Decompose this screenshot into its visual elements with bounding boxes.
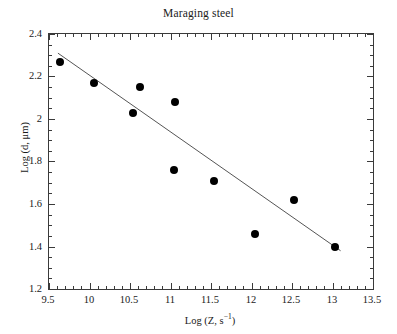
axis-tick — [357, 286, 358, 289]
axis-tick — [367, 76, 373, 77]
axis-tick — [370, 140, 373, 141]
axis-tick — [49, 119, 55, 120]
axis-tick — [57, 34, 58, 37]
data-point — [210, 177, 218, 185]
axis-tick — [276, 286, 277, 289]
axis-tick — [98, 34, 99, 37]
axis-tick — [49, 76, 55, 77]
axis-tick — [370, 183, 373, 184]
axis-tick — [171, 34, 172, 40]
axis-tick — [122, 286, 123, 289]
axis-tick — [370, 66, 373, 67]
axis-tick — [308, 34, 309, 37]
axis-tick — [235, 286, 236, 289]
axis-tick — [49, 130, 52, 131]
axis-tick — [195, 286, 196, 289]
axis-tick — [235, 34, 236, 37]
y-tick-label: 2.4 — [14, 28, 42, 39]
axis-tick — [114, 286, 115, 289]
axis-tick — [333, 283, 334, 289]
x-tick-label: 9.5 — [41, 294, 54, 305]
axis-tick — [367, 204, 373, 205]
axis-tick — [367, 161, 373, 162]
axis-tick — [367, 119, 373, 120]
plot-area — [48, 33, 374, 290]
axis-tick — [81, 286, 82, 289]
axis-tick — [106, 286, 107, 289]
axis-tick — [316, 34, 317, 37]
axis-tick — [284, 286, 285, 289]
axis-tick — [49, 289, 55, 290]
axis-tick — [49, 45, 52, 46]
x-tick-label: 10.5 — [120, 294, 138, 305]
axis-tick — [370, 236, 373, 237]
axis-tick — [73, 286, 74, 289]
y-tick-label: 1.2 — [14, 283, 42, 294]
axis-tick — [370, 55, 373, 56]
axis-tick — [324, 34, 325, 37]
axis-tick — [370, 98, 373, 99]
axis-tick — [49, 108, 52, 109]
x-tick-label: 12.5 — [282, 294, 300, 305]
chart-title: Maraging steel — [0, 7, 397, 19]
axis-tick — [146, 286, 147, 289]
data-point — [129, 109, 137, 117]
axis-tick — [370, 257, 373, 258]
axis-tick — [370, 193, 373, 194]
axis-tick — [292, 34, 293, 40]
axis-tick — [49, 257, 52, 258]
x-axis-title: Log (Z, s−1) — [48, 312, 372, 326]
axis-tick — [370, 151, 373, 152]
axis-tick — [292, 283, 293, 289]
data-point — [170, 166, 178, 174]
axis-tick — [49, 87, 52, 88]
axis-tick — [187, 286, 188, 289]
data-point — [56, 58, 64, 66]
axis-tick — [370, 225, 373, 226]
axis-tick — [367, 289, 373, 290]
axis-tick — [81, 34, 82, 37]
axis-tick — [219, 286, 220, 289]
axis-tick — [49, 172, 52, 173]
axis-tick — [90, 283, 91, 289]
axis-tick — [138, 286, 139, 289]
data-point — [331, 243, 339, 251]
axis-tick — [49, 161, 55, 162]
axis-tick — [49, 236, 52, 237]
axis-tick — [146, 34, 147, 37]
axis-tick — [365, 34, 366, 37]
axis-tick — [49, 247, 55, 248]
axis-tick — [49, 268, 52, 269]
axis-tick — [284, 34, 285, 37]
axis-tick — [373, 34, 374, 40]
axis-tick — [341, 286, 342, 289]
axis-tick — [227, 34, 228, 37]
axis-tick — [130, 34, 131, 40]
axis-tick — [349, 34, 350, 37]
axis-tick — [367, 34, 373, 35]
axis-tick — [73, 34, 74, 37]
axis-tick — [65, 286, 66, 289]
axis-tick — [365, 286, 366, 289]
x-tick-label: 11.5 — [201, 294, 219, 305]
axis-tick — [49, 34, 55, 35]
axis-tick — [367, 247, 373, 248]
axis-tick — [308, 286, 309, 289]
axis-tick — [370, 45, 373, 46]
y-axis-title: Log (d, μm) — [19, 78, 30, 218]
axis-tick — [195, 34, 196, 37]
axis-tick — [106, 34, 107, 37]
axis-tick — [154, 286, 155, 289]
data-point — [290, 196, 298, 204]
axis-tick — [49, 193, 52, 194]
axis-tick — [276, 34, 277, 37]
axis-tick — [211, 283, 212, 289]
axis-tick — [227, 286, 228, 289]
regression-line — [49, 34, 373, 289]
axis-tick — [122, 34, 123, 37]
axis-tick — [211, 34, 212, 40]
axis-tick — [370, 87, 373, 88]
axis-tick — [130, 283, 131, 289]
axis-tick — [370, 130, 373, 131]
axis-tick — [65, 34, 66, 37]
